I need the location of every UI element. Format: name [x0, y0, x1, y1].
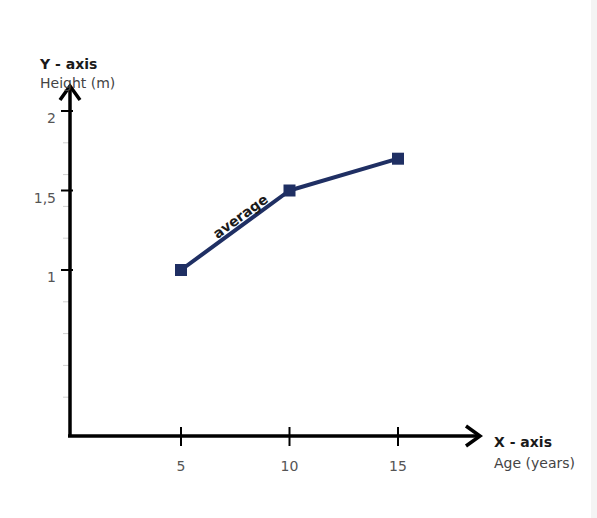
series-annotation: average [210, 191, 271, 242]
x-tick-label: 10 [281, 458, 299, 474]
data-point-marker [175, 264, 187, 276]
y-tick-label: 1,5 [34, 190, 56, 206]
x-axis-label: Age (years) [494, 455, 575, 471]
x-tick-label: 15 [389, 458, 407, 474]
series-line [181, 159, 398, 270]
chart: 11,52 51015 Y - axis Height (m) X - axis… [0, 0, 597, 518]
series-average [175, 153, 404, 276]
data-point-marker [284, 185, 296, 197]
x-tick-label: 5 [177, 458, 186, 474]
x-axis-title: X - axis [494, 434, 552, 450]
y-ticks: 11,52 [34, 110, 73, 285]
y-tick-label: 1 [47, 269, 56, 285]
x-ticks: 51015 [177, 427, 407, 474]
data-point-marker [392, 153, 404, 165]
y-tick-label: 2 [47, 110, 56, 126]
y-axis-title: Y - axis [39, 56, 97, 72]
y-axis-label: Height (m) [40, 75, 115, 91]
axes [60, 86, 480, 446]
